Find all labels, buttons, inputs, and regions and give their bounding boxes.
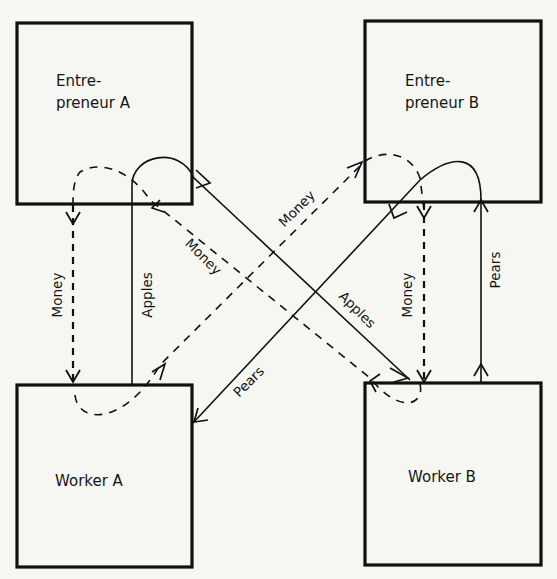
money-flow-eb-to-wb — [417, 203, 431, 382]
label-money-wb-ea: Money — [182, 235, 225, 278]
entrepreneur-a-line1: Entre- — [56, 70, 130, 92]
entrepreneur-a-label: Entre- preneur A — [56, 70, 130, 114]
label-pears-eb-wa: Pears — [230, 363, 267, 400]
entrepreneur-b-line1: Entre- — [405, 70, 479, 92]
entrepreneur-a-line2: preneur A — [56, 92, 130, 114]
worker-a-label: Worker A — [55, 470, 123, 492]
entrepreneur-b-label: Entre- preneur B — [405, 70, 479, 114]
label-money-wa-eb: Money — [275, 187, 318, 230]
label-money-ea-wa: Money — [49, 273, 65, 318]
label-money-eb-wb: Money — [399, 273, 415, 318]
money-flow-ea-to-wa — [66, 205, 80, 383]
label-apples-ea-wb: Apples — [336, 288, 379, 331]
entrepreneur-b-line2: preneur B — [405, 92, 479, 114]
worker-b-label: Worker B — [408, 466, 476, 488]
label-pears-wb-eb: Pears — [487, 252, 503, 289]
label-apples-wa-ea: Apples — [139, 272, 155, 317]
